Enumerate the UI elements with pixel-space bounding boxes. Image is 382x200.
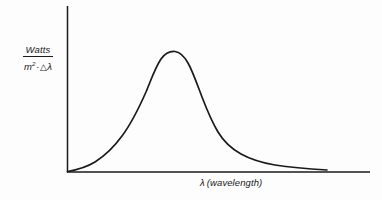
x-axis-label: λ(wavelength) [200,177,262,188]
y-axis-unit-meter: m [24,61,32,72]
x-axis-label-text: (wavelength) [207,177,263,188]
plot-canvas [0,0,382,200]
blackbody-curve-path [68,51,328,171]
y-axis-label-numerator: Watts [23,45,52,57]
blackbody-curve-figure: Watts m2·△λ λ(wavelength) [0,0,382,200]
x-axis-lambda-symbol: λ [200,177,207,188]
lambda-symbol: λ [47,61,52,72]
y-axis-label: Watts m2·△λ [12,40,64,74]
y-axis-label-denominator: m2·△λ [24,61,52,72]
